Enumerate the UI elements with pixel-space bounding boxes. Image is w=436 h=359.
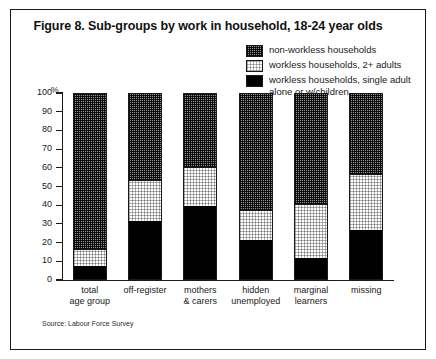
stacked-bar[interactable] [183, 93, 217, 280]
y-axis-tick-label: 100 [26, 87, 52, 97]
y-axis-tick-label: 10 [26, 255, 52, 265]
x-axis-category-label-line: marginal [283, 285, 338, 296]
x-axis-category-label: mothers& carers [173, 285, 228, 306]
x-axis-category-label: off-register [117, 285, 172, 296]
bar-segment-non-workless[interactable] [295, 94, 327, 204]
bar-segment-workless-2plus[interactable] [129, 180, 161, 223]
stacked-bar[interactable] [128, 93, 162, 280]
bar-segment-workless-single[interactable] [295, 258, 327, 279]
figure-root: Figure 8. Sub-groups by work in househol… [0, 0, 436, 359]
stacked-bar[interactable] [294, 93, 328, 280]
bar-group[interactable] [183, 93, 217, 280]
x-axis-category-label: missing [339, 285, 394, 296]
bar-segment-non-workless[interactable] [184, 94, 216, 167]
y-axis-tick-label: 20 [26, 237, 52, 247]
bar-segment-workless-2plus[interactable] [295, 204, 327, 260]
stacked-bar[interactable] [73, 93, 107, 280]
stacked-bar[interactable] [349, 93, 383, 280]
bar-segment-non-workless[interactable] [350, 94, 382, 174]
stacked-bar[interactable] [239, 93, 273, 280]
x-axis-category-label-line: age group [62, 296, 117, 307]
bar-segment-workless-2plus[interactable] [184, 167, 216, 208]
bar-group[interactable] [294, 93, 328, 280]
y-axis-tick-label: 0 [26, 274, 52, 284]
x-axis-category-label-line: total [62, 285, 117, 296]
x-axis-category-label-line: missing [339, 285, 394, 296]
x-axis-category-label: marginallearners [283, 285, 338, 306]
bar-segment-workless-single[interactable] [129, 221, 161, 279]
bar-segment-workless-single[interactable] [350, 230, 382, 279]
bar-segment-workless-2plus[interactable] [350, 174, 382, 232]
y-axis-tick-label: 50 [26, 181, 52, 191]
y-axis-tick-label: 70 [26, 143, 52, 153]
source-note: Source: Labour Force Survey [42, 320, 133, 327]
bar-segment-workless-single[interactable] [74, 266, 106, 279]
bar-group[interactable] [128, 93, 162, 280]
bar-segment-workless-single[interactable] [184, 206, 216, 279]
x-axis-category-label-line: hidden [228, 285, 283, 296]
plot-area: % 0102030405060708090100 totalage groupo… [0, 0, 416, 341]
y-axis-tick-label: 30 [26, 218, 52, 228]
x-axis-category-label: totalage group [62, 285, 117, 306]
bars-container [62, 93, 394, 280]
y-axis-tick-label: 60 [26, 162, 52, 172]
bar-group[interactable] [239, 93, 273, 280]
bar-segment-workless-single[interactable] [240, 240, 272, 279]
x-axis-category-label-line: off-register [117, 285, 172, 296]
x-axis-category-label-line: learners [283, 296, 338, 307]
y-axis-tick-label: 40 [26, 199, 52, 209]
bar-segment-workless-2plus[interactable] [240, 210, 272, 242]
x-axis-category-label: hiddenunemployed [228, 285, 283, 306]
bar-segment-non-workless[interactable] [129, 94, 161, 180]
y-axis-tick-label: 80 [26, 124, 52, 134]
bar-segment-non-workless[interactable] [74, 94, 106, 249]
bar-group[interactable] [349, 93, 383, 280]
bar-segment-non-workless[interactable] [240, 94, 272, 210]
x-axis-category-label-line: unemployed [228, 296, 283, 307]
x-axis-category-label-line: & carers [173, 296, 228, 307]
x-axis-category-label-line: mothers [173, 285, 228, 296]
y-axis-tick-label: 90 [26, 106, 52, 116]
bar-group[interactable] [73, 93, 107, 280]
